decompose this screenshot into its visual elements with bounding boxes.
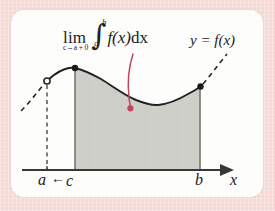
filled-dot-marker-at-c (72, 65, 78, 71)
axis-label-a: a (38, 172, 46, 188)
axis-label-c: c (66, 173, 73, 189)
dashed-curve-extension-right (203, 54, 227, 84)
integrand-function: f(x) (107, 28, 131, 47)
limit-operator: lim c→a + 0 (63, 22, 86, 46)
x-axis-name-label: x (230, 172, 237, 188)
integral-sign-group: b ∫ c (91, 22, 106, 48)
arrow-c-to-a-icon: ← (51, 172, 65, 186)
limit-integral-formula: lim c→a + 0 b ∫ c f(x)dx (63, 22, 148, 48)
figure-root: lim c→a + 0 b ∫ c f(x)dx y = f(x) a ← c … (0, 0, 275, 211)
filled-dot-marker-at-b (197, 83, 203, 89)
axis-label-b: b (195, 172, 203, 188)
curve-equation-label: y = f(x) (190, 33, 235, 48)
red-pointer-dot (127, 105, 133, 111)
integrand-expression: f(x)dx (107, 22, 148, 46)
integral-upper-limit: b (102, 19, 106, 27)
differential-dx: dx (131, 28, 148, 47)
dashed-curve-extension-left (21, 84, 44, 111)
integral-lower-limit: c (94, 40, 98, 48)
open-circle-marker-at-a (44, 78, 50, 84)
shaded-region-under-curve (75, 68, 200, 170)
limit-subscript: c→a + 0 (63, 44, 88, 52)
